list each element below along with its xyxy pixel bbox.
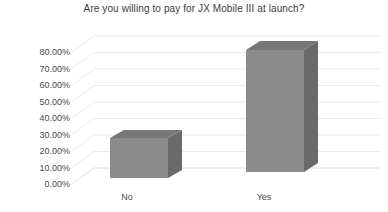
chart-container: Are you willing to pay for JX Mobile III… xyxy=(0,0,388,212)
x-axis: No Yes xyxy=(0,0,388,212)
x-axis-tick-label-no: No xyxy=(121,192,133,202)
x-axis-tick-label-yes: Yes xyxy=(257,192,272,202)
